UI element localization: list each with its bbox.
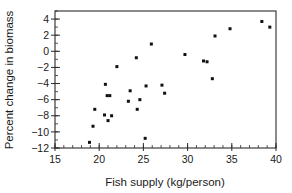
data-point	[183, 53, 186, 56]
data-point	[103, 113, 106, 116]
y-tick-label: −6	[37, 93, 49, 105]
x-tick-label: 30	[182, 153, 194, 165]
y-tick-label: 2	[43, 29, 49, 41]
data-point	[129, 89, 132, 92]
data-point	[110, 114, 113, 117]
data-point	[108, 94, 111, 97]
data-point	[268, 26, 271, 29]
data-point	[88, 141, 91, 144]
data-point	[260, 20, 263, 23]
x-tick-label: 40	[270, 153, 282, 165]
data-point	[144, 137, 147, 140]
data-point	[202, 59, 205, 62]
plot-frame	[55, 11, 276, 148]
x-tick-label: 25	[138, 153, 150, 165]
scatter-chart-canvas: 152025303540 420−2−4−6−8−10−12 Fish supp…	[0, 0, 292, 193]
y-axis-tick-labels: 420−2−4−6−8−10−12	[31, 13, 49, 154]
data-point	[107, 119, 110, 122]
data-point	[136, 108, 139, 111]
data-point	[92, 125, 95, 128]
data-point	[127, 100, 130, 103]
x-axis-title: Fish supply (kg/person)	[105, 176, 225, 188]
data-point	[206, 60, 209, 63]
y-tick-label: 0	[43, 45, 49, 57]
data-point-group	[88, 20, 271, 144]
y-tick-label: −2	[37, 61, 49, 73]
data-point	[150, 43, 153, 46]
data-point	[115, 65, 118, 68]
y-axis-title: Percent change in biomass	[3, 10, 15, 149]
data-point	[160, 84, 163, 87]
data-point	[93, 108, 96, 111]
y-tick-label: −10	[31, 126, 49, 138]
data-point	[135, 56, 138, 59]
y-tick-label: −8	[37, 109, 49, 121]
data-point	[211, 77, 214, 80]
data-point	[163, 92, 166, 95]
x-axis-tick-labels: 152025303540	[49, 153, 282, 165]
data-point	[214, 34, 217, 37]
data-point	[106, 94, 109, 97]
data-point	[138, 98, 141, 101]
x-tick-label: 35	[226, 153, 238, 165]
scatter-plot-figure: 152025303540 420−2−4−6−8−10−12 Fish supp…	[0, 0, 292, 193]
axis-minor-ticks	[55, 11, 276, 148]
x-tick-label: 15	[49, 153, 61, 165]
x-tick-label: 20	[93, 153, 105, 165]
data-point	[145, 84, 148, 87]
data-point	[229, 27, 232, 30]
y-tick-label: −4	[37, 77, 49, 89]
y-tick-label: 4	[43, 13, 49, 25]
data-point	[104, 83, 107, 86]
axis-major-ticks	[51, 19, 276, 151]
y-tick-label: −12	[31, 142, 49, 154]
